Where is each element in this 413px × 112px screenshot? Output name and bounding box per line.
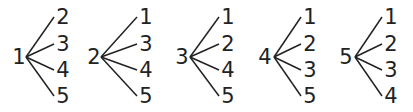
leaf-node: 2 bbox=[56, 5, 69, 29]
leaf-node: 4 bbox=[139, 58, 152, 82]
tree-1: 12345 bbox=[12, 5, 69, 108]
leaf-node: 5 bbox=[221, 84, 234, 108]
leaf-node: 4 bbox=[56, 58, 69, 82]
leaf-node: 2 bbox=[303, 32, 316, 56]
root-node: 4 bbox=[258, 45, 271, 69]
tree-5: 51234 bbox=[339, 5, 397, 108]
leaf-node: 1 bbox=[139, 5, 152, 29]
tree-2: 21345 bbox=[87, 5, 152, 108]
tree-3: 31245 bbox=[175, 5, 234, 108]
leaf-node: 3 bbox=[303, 58, 316, 82]
root-node: 2 bbox=[87, 45, 100, 69]
leaf-node: 5 bbox=[303, 84, 316, 108]
leaf-node: 4 bbox=[384, 84, 397, 108]
leaf-node: 3 bbox=[56, 32, 69, 56]
leaf-node: 5 bbox=[139, 84, 152, 108]
root-node: 5 bbox=[339, 45, 352, 69]
tree-4: 41235 bbox=[258, 5, 316, 108]
leaf-node: 3 bbox=[384, 58, 397, 82]
leaf-node: 1 bbox=[221, 5, 234, 29]
leaf-node: 1 bbox=[384, 5, 397, 29]
leaf-node: 2 bbox=[221, 32, 234, 56]
leaf-node: 5 bbox=[56, 84, 69, 108]
leaf-node: 3 bbox=[139, 32, 152, 56]
root-node: 3 bbox=[175, 45, 188, 69]
root-node: 1 bbox=[12, 45, 25, 69]
leaf-node: 1 bbox=[303, 5, 316, 29]
leaf-node: 2 bbox=[384, 32, 397, 56]
tree-diagram: 1234521345312454123551234 bbox=[0, 0, 413, 112]
leaf-node: 4 bbox=[221, 58, 234, 82]
